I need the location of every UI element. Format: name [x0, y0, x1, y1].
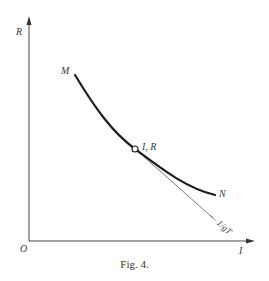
operating-point-marker: [132, 146, 138, 152]
y-axis-arrow-icon: [27, 16, 32, 25]
curve-start-label: M: [61, 66, 69, 76]
y-axis-label: R: [16, 27, 22, 37]
x-axis-arrow-icon: [246, 239, 255, 244]
figure-caption: Fig. 4.: [0, 258, 269, 270]
point-label: I, R: [142, 142, 156, 152]
curve-mn: [75, 75, 215, 195]
diagram-canvas: [0, 0, 269, 281]
x-axis-label: I: [239, 246, 242, 256]
curve-end-label: N: [219, 189, 226, 199]
origin-label: O: [20, 244, 27, 254]
figure: R O I M N I, R — 1/gT Fig. 4.: [0, 0, 269, 281]
